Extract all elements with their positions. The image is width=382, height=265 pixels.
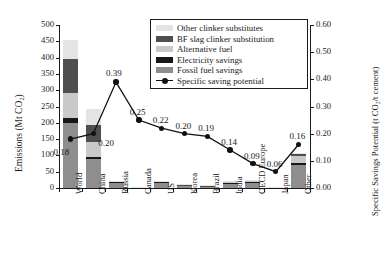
legend-item-label: Electricity savings [177, 55, 242, 65]
legend-item-label: BF slag clinker substitution [177, 34, 274, 44]
line-data-label: 0.16 [290, 131, 306, 141]
legend-item[interactable]: Alternative fuel [156, 44, 232, 54]
legend-color-swatch [156, 57, 173, 63]
x-axis-label: World [74, 173, 84, 194]
legend-item-label: Other clinker substitutes [177, 23, 263, 33]
line-data-label: 0.39 [106, 68, 122, 78]
x-axis-label: OECD Europe [257, 144, 267, 194]
line-data-label: 0.25 [130, 107, 146, 117]
line-data-label: 0.14 [221, 137, 237, 147]
line-data-point [250, 161, 255, 166]
x-axis-label: Other [303, 174, 313, 194]
legend-item[interactable]: Specific saving potential [156, 76, 264, 86]
x-axis-label: China [97, 173, 107, 194]
legend-item[interactable]: Fossil fuel savings [156, 65, 243, 75]
x-axis-label: Japan [280, 174, 290, 194]
legend-item[interactable]: Other clinker substitutes [156, 23, 263, 33]
line-data-label: 0.20 [176, 121, 192, 131]
legend-line-marker-icon [156, 78, 173, 84]
legend-item-label: Alternative fuel [177, 44, 232, 54]
line-data-point [68, 136, 73, 141]
chart-legend: Other clinker substitutesBF slag clinker… [150, 19, 308, 89]
line-data-label: 0.20 [98, 138, 114, 148]
line-data-label: 0.18 [53, 147, 69, 157]
x-axis-label: Brazil [211, 173, 221, 194]
line-data-point [205, 134, 210, 139]
legend-color-swatch [156, 67, 173, 73]
line-data-label: 0.22 [153, 115, 169, 125]
legend-item[interactable]: Electricity savings [156, 55, 242, 65]
line-data-label: 0.06 [267, 159, 283, 169]
x-axis-label: Canada [143, 168, 153, 194]
legend-item[interactable]: BF slag clinker substitution [156, 34, 274, 44]
legend-item-label: Specific saving potential [177, 76, 264, 86]
x-tick-mark [59, 189, 60, 192]
legend-color-swatch [156, 46, 173, 52]
line-data-label: 0.19 [198, 123, 214, 133]
chart-figure: Emissions (Mt CO₂) Specific Savings Pote… [0, 0, 382, 265]
x-axis-label: US [166, 183, 176, 194]
x-axis-label: Korea [189, 173, 199, 194]
x-axis-label: India [234, 176, 244, 194]
line-data-point [136, 117, 141, 122]
legend-color-swatch [156, 36, 173, 42]
line-data-point [227, 147, 232, 152]
line-data-point [113, 79, 118, 84]
x-axis-label: Russia [120, 171, 130, 194]
legend-color-swatch [156, 25, 173, 31]
legend-item-label: Fossil fuel savings [177, 65, 243, 75]
